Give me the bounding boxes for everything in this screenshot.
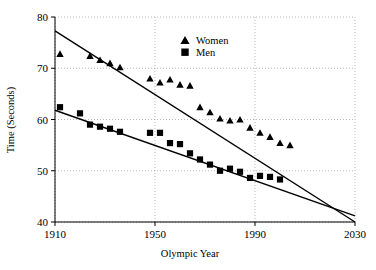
x-tick-label: 1990 bbox=[244, 228, 267, 240]
data-point-men bbox=[197, 156, 203, 162]
data-point-women bbox=[206, 109, 213, 116]
data-point-women bbox=[226, 117, 233, 124]
y-tick-label: 50 bbox=[37, 165, 49, 177]
data-point-men bbox=[77, 110, 83, 116]
data-point-men bbox=[147, 130, 153, 136]
legend-label-men: Men bbox=[196, 47, 216, 58]
legend-entry-men: Men bbox=[181, 47, 216, 58]
data-point-men bbox=[107, 126, 113, 132]
x-tick-label: 2030 bbox=[344, 228, 367, 240]
data-point-men bbox=[237, 169, 243, 175]
data-point-men bbox=[157, 130, 163, 136]
legend-entry-women: Women bbox=[180, 35, 229, 46]
data-point-women bbox=[156, 79, 163, 86]
x-tick-label: 1910 bbox=[44, 228, 67, 240]
x-tick-labels: 1910195019902030 bbox=[44, 228, 367, 240]
square-marker-icon bbox=[181, 49, 188, 56]
x-axis-title: Olympic Year bbox=[161, 248, 220, 259]
data-point-men bbox=[177, 141, 183, 147]
data-point-men bbox=[227, 166, 233, 172]
data-point-women bbox=[56, 50, 63, 57]
x-tick-label: 1950 bbox=[144, 228, 167, 240]
data-point-women bbox=[256, 129, 263, 136]
triangle-marker-icon bbox=[180, 36, 189, 44]
data-point-women bbox=[276, 139, 283, 146]
y-tick-labels: 4050607080 bbox=[37, 11, 49, 228]
y-tick-label: 80 bbox=[37, 11, 49, 23]
data-point-women bbox=[196, 104, 203, 111]
data-point-women bbox=[176, 81, 183, 88]
data-point-women bbox=[86, 52, 93, 59]
data-point-women bbox=[236, 116, 243, 123]
data-point-men bbox=[87, 122, 93, 128]
olympic-times-scatter-chart: 1910195019902030 4050607080 Olympic Year… bbox=[0, 0, 376, 270]
chart-legend: Women Men bbox=[180, 35, 229, 58]
legend-label-women: Women bbox=[196, 35, 229, 46]
data-point-women bbox=[186, 82, 193, 89]
data-point-men bbox=[187, 150, 193, 156]
chart-canvas: 1910195019902030 4050607080 Olympic Year… bbox=[0, 0, 376, 270]
data-point-men bbox=[267, 174, 273, 180]
data-point-women bbox=[116, 64, 123, 71]
data-point-men bbox=[167, 140, 173, 146]
y-tick-label: 40 bbox=[37, 216, 49, 228]
data-point-women bbox=[166, 76, 173, 83]
data-point-men bbox=[57, 104, 63, 110]
data-point-men bbox=[217, 168, 223, 174]
data-point-men bbox=[277, 176, 283, 182]
y-tick-label: 70 bbox=[37, 62, 49, 74]
data-point-women bbox=[266, 133, 273, 140]
data-point-men bbox=[97, 124, 103, 130]
data-point-women bbox=[246, 124, 253, 131]
series-markers-women bbox=[56, 50, 293, 148]
data-point-women bbox=[106, 60, 113, 67]
data-point-women bbox=[286, 142, 293, 149]
y-axis-title: Time (Seconds) bbox=[5, 86, 17, 153]
data-point-women bbox=[146, 75, 153, 82]
y-tick-label: 60 bbox=[37, 114, 49, 126]
data-point-men bbox=[247, 175, 253, 181]
data-point-men bbox=[257, 173, 263, 179]
data-point-men bbox=[207, 162, 213, 168]
data-point-men bbox=[117, 129, 123, 135]
data-point-women bbox=[216, 115, 223, 122]
